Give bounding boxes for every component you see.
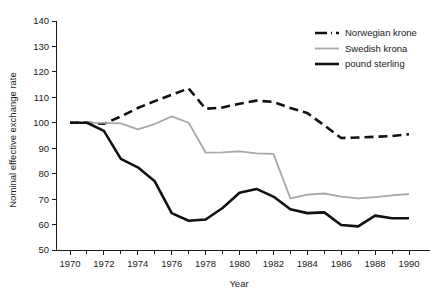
y-axis-tick-labels: 1401301201101009080706050 <box>33 15 49 255</box>
y-axis-tick-label: 60 <box>38 219 49 230</box>
y-axis-tick-label: 140 <box>33 15 49 26</box>
y-axis-tick-label: 130 <box>33 41 49 52</box>
x-axis-tick-label: 1976 <box>161 258 182 269</box>
y-axis-tick-label: 80 <box>38 168 49 179</box>
chart-figure: 1401301201101009080706050 19701972197419… <box>0 0 438 294</box>
legend-label-pound-sterling: pound sterling <box>345 58 405 69</box>
y-axis-tick-label: 100 <box>33 117 49 128</box>
x-axis-tick-label: 1978 <box>195 258 216 269</box>
x-axis-tick-label: 1980 <box>229 258 250 269</box>
chart-canvas: 1401301201101009080706050 19701972197419… <box>0 0 438 294</box>
chart-legend: Norwegian kroneSwedish kronapound sterli… <box>315 27 417 69</box>
data-series-layer <box>70 88 409 226</box>
x-axis-title: Year <box>229 278 248 289</box>
y-axis-tick-label: 120 <box>33 66 49 77</box>
x-axis-tick-label: 1974 <box>127 258 148 269</box>
x-axis-tick-label: 1988 <box>365 258 386 269</box>
x-axis-tick-labels: 1970197219741976197819801982198419861988… <box>59 258 419 269</box>
x-axis-tick-label: 1970 <box>59 258 80 269</box>
x-axis-tick-label: 1990 <box>398 258 419 269</box>
x-axis-tick-label: 1982 <box>263 258 284 269</box>
x-axis-tick-label: 1972 <box>93 258 114 269</box>
y-axis-tick-label: 90 <box>38 143 49 154</box>
y-axis-tick-label: 110 <box>34 92 49 103</box>
y-axis-tick-label: 50 <box>38 244 49 255</box>
y-axis-tick-label: 70 <box>38 194 49 205</box>
x-axis-tick-label: 1984 <box>297 258 318 269</box>
y-axis-title: Nominal effective exchange rate <box>7 72 18 208</box>
legend-label-norwegian-krone: Norwegian krone <box>345 27 417 38</box>
x-axis-tick-label: 1986 <box>331 258 352 269</box>
legend-label-swedish-krona: Swedish krona <box>345 43 408 54</box>
series-line-norwegian-krone <box>70 88 409 138</box>
